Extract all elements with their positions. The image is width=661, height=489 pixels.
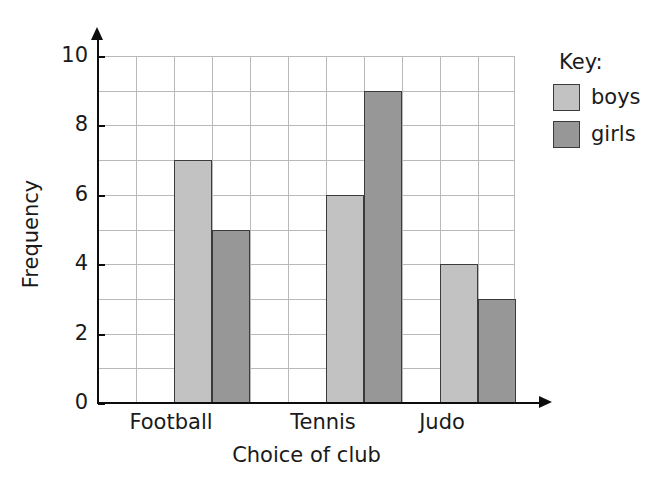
x-axis-title: Choice of club bbox=[98, 443, 515, 467]
y-tick-mark bbox=[98, 125, 105, 127]
gridline-horizontal bbox=[98, 91, 515, 92]
y-axis-line bbox=[97, 36, 99, 404]
x-tick-label-football: Football bbox=[95, 410, 247, 434]
gridline-vertical bbox=[250, 56, 251, 403]
y-tick-mark bbox=[98, 403, 105, 405]
legend-title: Key: bbox=[559, 50, 661, 74]
bar-football-girls bbox=[212, 230, 250, 404]
y-tick-label: 8 bbox=[75, 114, 88, 135]
y-axis-title: Frequency bbox=[19, 154, 43, 314]
x-tick-label-judo: Judo bbox=[385, 410, 499, 434]
gridline-horizontal bbox=[98, 230, 515, 231]
gridline-vertical bbox=[402, 56, 403, 403]
y-tick-label: 2 bbox=[75, 323, 88, 344]
legend-swatch-boys-icon bbox=[553, 84, 580, 111]
gridline-horizontal bbox=[98, 56, 515, 57]
gridline-vertical bbox=[288, 56, 289, 403]
plot-area bbox=[98, 56, 515, 403]
y-tick-label: 4 bbox=[75, 253, 88, 274]
bar-judo-girls bbox=[478, 299, 516, 403]
y-tick-label: 0 bbox=[75, 392, 88, 413]
legend-swatch-girls-icon bbox=[553, 121, 580, 148]
y-tick-mark bbox=[98, 56, 105, 58]
gridline-horizontal bbox=[98, 195, 515, 196]
x-axis-line bbox=[97, 402, 540, 404]
y-tick-label: 6 bbox=[75, 184, 88, 205]
gridline-vertical bbox=[136, 56, 137, 403]
bar-chart-figure: 10 8 6 4 2 0 Football Tennis Judo Freque… bbox=[0, 0, 661, 489]
legend: Key: boys girls bbox=[553, 50, 661, 158]
legend-item-boys: boys bbox=[553, 84, 661, 111]
bar-football-boys bbox=[174, 160, 212, 403]
y-tick-label: 10 bbox=[61, 45, 88, 66]
x-tick-label-tennis: Tennis bbox=[247, 410, 399, 434]
gridline-horizontal bbox=[98, 125, 515, 126]
y-axis-arrow-icon bbox=[91, 27, 103, 40]
y-tick-mark bbox=[98, 334, 105, 336]
legend-label-boys: boys bbox=[591, 87, 641, 108]
bar-tennis-boys bbox=[326, 195, 364, 403]
bar-judo-boys bbox=[440, 264, 478, 403]
y-tick-labels: 10 8 6 4 2 0 bbox=[50, 0, 88, 489]
x-axis-arrow-icon bbox=[539, 396, 552, 408]
y-tick-mark bbox=[98, 195, 105, 197]
gridline-horizontal bbox=[98, 160, 515, 161]
legend-label-girls: girls bbox=[591, 124, 636, 145]
bar-tennis-girls bbox=[364, 91, 402, 403]
legend-item-girls: girls bbox=[553, 121, 661, 148]
y-tick-mark bbox=[98, 264, 105, 266]
